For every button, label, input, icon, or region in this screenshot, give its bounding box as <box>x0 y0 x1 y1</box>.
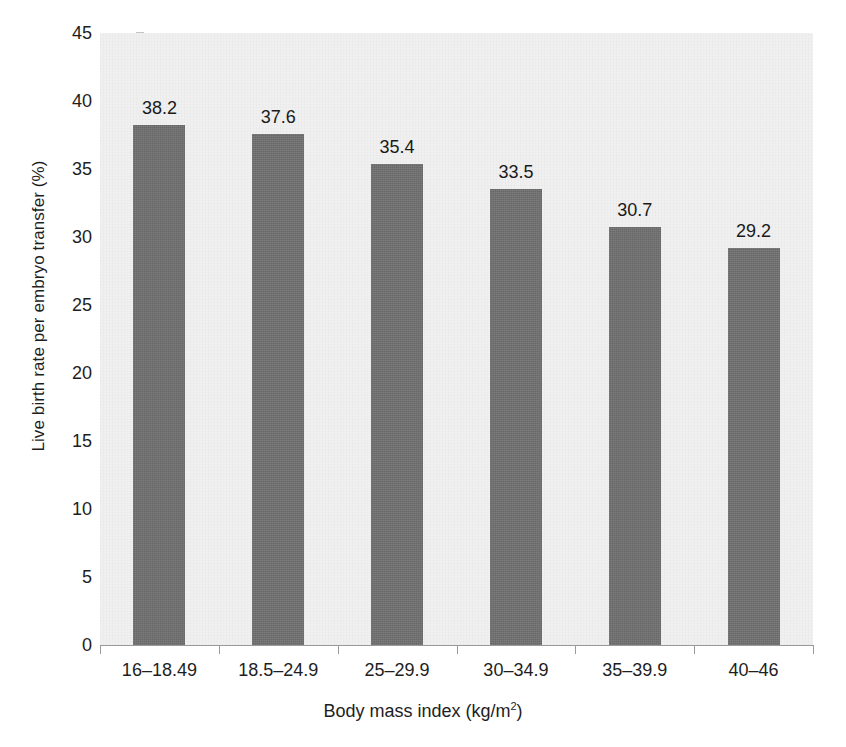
x-axis-tickmark <box>694 646 695 654</box>
x-axis-title-text: Body mass index (kg/m <box>323 701 510 721</box>
y-axis-ticklabel: 45 <box>72 23 92 44</box>
y-axis-ticklabels: 051015202530354045 <box>44 33 92 645</box>
y-axis-ticklabel: 30 <box>72 227 92 248</box>
bar[interactable] <box>728 248 780 645</box>
y-axis-ticklabel: 0 <box>82 635 92 656</box>
x-axis-ticklabel: 18.5–24.9 <box>238 660 318 681</box>
bar[interactable] <box>252 134 304 645</box>
bar[interactable] <box>490 189 542 645</box>
x-axis-tickmark <box>338 646 339 654</box>
y-axis-ticklabel: 25 <box>72 295 92 316</box>
bar[interactable] <box>371 164 423 645</box>
x-axis-title-suffix: ) <box>517 701 523 721</box>
y-axis-ticklabel: 5 <box>82 567 92 588</box>
y-axis-ticklabel: 15 <box>72 431 92 452</box>
bar[interactable] <box>133 125 185 645</box>
y-axis-ticklabel: 20 <box>72 363 92 384</box>
bar-value-label: 30.7 <box>617 200 652 221</box>
x-axis-ticklabel: 25–29.9 <box>365 660 430 681</box>
x-axis-tickmark <box>457 646 458 654</box>
bar-chart-figure: Live birth rate per embryo transfer (%) … <box>0 0 846 747</box>
bar-value-label: 35.4 <box>380 137 415 158</box>
x-axis-tickmark <box>219 646 220 654</box>
y-axis-ticklabel: 10 <box>72 499 92 520</box>
y-axis-ticklabel: 40 <box>72 91 92 112</box>
plot-area: 38.237.635.433.530.729.2 <box>100 33 813 645</box>
x-axis-tickmark <box>813 646 814 654</box>
y-axis-ticklabel: 35 <box>72 159 92 180</box>
x-axis-ticklabel: 16–18.49 <box>122 660 197 681</box>
bar-value-label: 29.2 <box>736 221 771 242</box>
x-axis-ticklabel: 35–39.9 <box>602 660 667 681</box>
bar[interactable] <box>609 227 661 645</box>
x-axis-title: Body mass index (kg/m2) <box>0 700 846 722</box>
x-axis-ticklabel: 40–46 <box>729 660 779 681</box>
bar-value-label: 33.5 <box>498 162 533 183</box>
x-axis-tickmark <box>100 646 101 654</box>
bar-value-label: 37.6 <box>261 107 296 128</box>
x-axis-tickmark <box>575 646 576 654</box>
bar-value-label: 38.2 <box>142 98 177 119</box>
x-axis-ticklabel: 30–34.9 <box>483 660 548 681</box>
